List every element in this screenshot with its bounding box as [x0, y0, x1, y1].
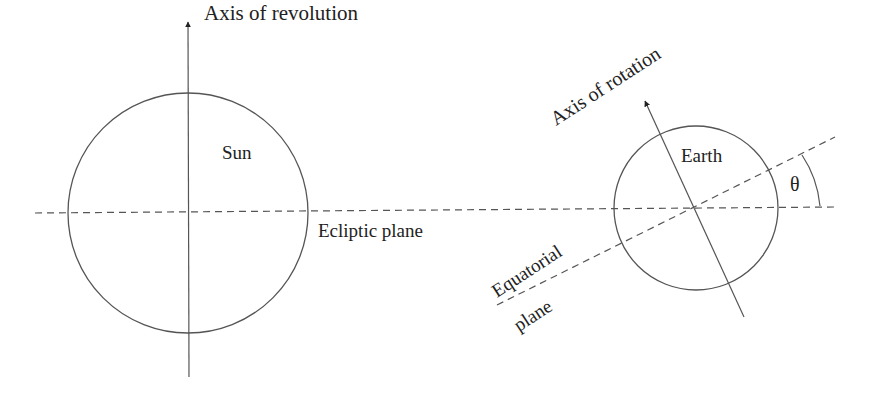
sun-label: Sun [222, 142, 252, 163]
axis-of-rotation-label: Axis of rotation [546, 42, 664, 129]
ecliptic-plane-label: Ecliptic plane [318, 220, 423, 241]
axis-of-revolution-label: Axis of revolution [204, 1, 358, 25]
theta-label: θ [790, 173, 800, 195]
equatorial-label: Equatorial [488, 241, 566, 302]
plane-label: plane [510, 295, 556, 335]
earth-label: Earth [681, 145, 723, 166]
ecliptic-plane-line [35, 207, 835, 213]
theta-angle-arc [802, 155, 820, 206]
axis-of-revolution-line [188, 22, 189, 377]
sun-earth-diagram: Axis of revolution Sun Ecliptic plane Ea… [0, 0, 869, 395]
equatorial-plane-line [497, 137, 835, 305]
